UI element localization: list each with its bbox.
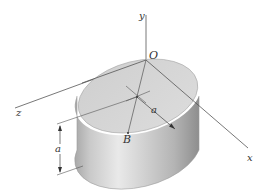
y-axis-label: y [139,11,145,21]
diagram-graphics [0,0,266,192]
origin-label: O [149,51,158,61]
radius-label: a [151,105,157,115]
height-label: a [55,144,61,154]
point-b-label: B [123,135,131,145]
x-axis-label: x [247,153,253,163]
cylinder-diagram: y O z x B a a [0,0,266,192]
z-axis-label: z [16,108,21,118]
